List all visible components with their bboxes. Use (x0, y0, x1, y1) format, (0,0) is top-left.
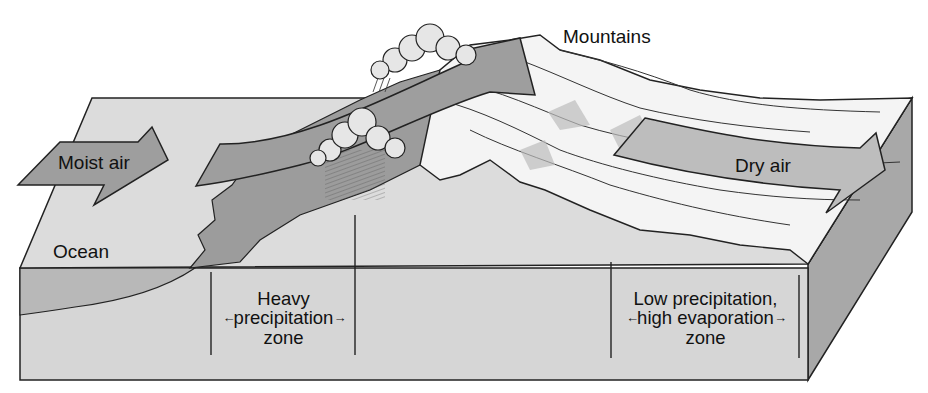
zone-label-line: zone (212, 328, 355, 347)
zone-label-line: high evaporation (637, 308, 774, 327)
zone-label-line: Heavy (212, 289, 355, 308)
zone-label-line: precipitation (234, 308, 334, 327)
low-precipitation-zone-label: Low precipitation, ← high evaporation → … (612, 289, 799, 347)
zone-label-line: zone (612, 328, 799, 347)
heavy-precipitation-zone-label: Heavy ← precipitation → zone (212, 289, 355, 347)
arrow-right-icon: → (774, 311, 785, 325)
arrow-left-icon: ← (223, 311, 234, 325)
arrow-right-icon: → (333, 311, 344, 325)
moist-air-label: Moist air (58, 153, 130, 173)
mountains-label: Mountains (563, 27, 651, 47)
arrow-left-icon: ← (626, 311, 637, 325)
ocean-label: Ocean (53, 242, 109, 262)
zone-label-line: Low precipitation, (612, 289, 799, 308)
dry-air-label: Dry air (735, 156, 791, 176)
